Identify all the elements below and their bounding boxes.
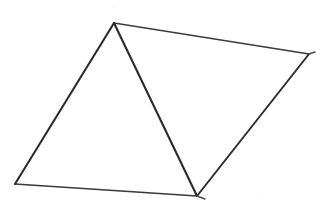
figure-canvas: Quadrilateral with interior diagonal (0, 0, 327, 214)
edge-diagonal (114, 23, 197, 196)
figure-overshoot-ticks (197, 52, 315, 199)
geometry-figure: Quadrilateral with interior diagonal (0, 0, 327, 214)
tick-bottom-vertex (197, 196, 205, 199)
edge-right-lower (197, 54, 309, 196)
edge-top-right (114, 23, 309, 54)
edge-bottom (15, 184, 197, 196)
figure-edges (15, 23, 309, 196)
edge-left (15, 23, 114, 184)
tick-right-vertex (309, 52, 315, 54)
